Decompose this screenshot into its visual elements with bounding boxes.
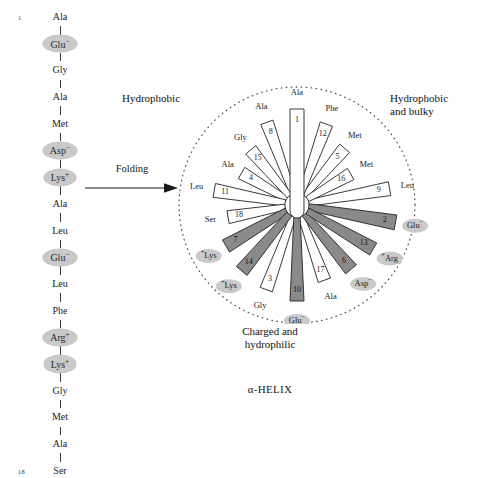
spoke-number-4: 4	[249, 173, 253, 182]
charged-residue-oval-13: +Arg	[377, 251, 403, 266]
spoke-number-18: 18	[235, 210, 243, 219]
peptide-bond-17	[60, 453, 61, 462]
residue-label-13: Arg+	[43, 329, 77, 346]
peptide-bond-9	[60, 240, 61, 249]
linear-chain-column: 1AlaGlu−GlyAlaMetAsp−Lys+AlaLeuGlu−LeuPh…	[0, 8, 120, 478]
residue-label-3: Gly	[254, 300, 268, 310]
spoke-number-8: 8	[269, 127, 273, 136]
residue-label-9: Leu	[401, 180, 415, 190]
residue-charge-7: +	[65, 170, 69, 179]
peptide-bond-5	[60, 133, 61, 142]
charged-residue-oval-10: Glu−	[284, 313, 310, 324]
residue-label-17: Ala	[50, 438, 70, 451]
residue-label-11: Leu	[190, 181, 204, 191]
residue-label-17: Ala	[324, 291, 337, 301]
chain-residue-16: Met	[0, 408, 120, 426]
spoke-number-2: 2	[383, 215, 387, 224]
zone-charged-line2: hydrophilic	[205, 338, 335, 351]
zone-charged-line1: Charged and	[205, 325, 335, 338]
residue-label-1: Ala	[291, 87, 304, 97]
residue-label-4: Ala	[50, 91, 70, 104]
residue-charge-14: +	[65, 357, 69, 366]
chain-residue-2: Glu−	[0, 35, 120, 53]
chain-residue-4: Ala	[0, 88, 120, 106]
spoke-number-6: 6	[342, 256, 346, 265]
peptide-bond-8	[60, 213, 61, 222]
residue-label-18: Ser	[205, 214, 217, 224]
peptide-bond-13	[60, 346, 61, 355]
zone-bulky-line2: and bulky	[390, 105, 490, 118]
spoke-number-13: 13	[360, 238, 368, 247]
charged-residue-oval-6: Asp−	[350, 276, 376, 291]
residue-label-10: Glu−	[43, 249, 76, 266]
helix-hub: 1	[290, 109, 304, 218]
chain-residue-3: Gly	[0, 61, 120, 79]
peptide-bond-1	[60, 26, 61, 35]
spoke-number-10: 10	[293, 285, 301, 294]
peptide-bond-16	[60, 427, 61, 436]
residue-label-6: Asp−	[43, 142, 77, 159]
chain-residue-5: Met	[0, 115, 120, 133]
charged-residue-oval-14: +Lys	[216, 279, 242, 294]
residue-label-8: Ala	[255, 101, 268, 111]
chain-residue-18: 18Ser	[0, 462, 120, 478]
peptide-bond-12	[60, 320, 61, 329]
spoke-number-7: 7	[234, 235, 238, 244]
residue-label-3: Gly	[50, 64, 71, 77]
chain-residue-12: Phe	[0, 302, 120, 320]
chain-residue-14: Lys+	[0, 355, 120, 373]
residue-label-18: Ser	[50, 464, 69, 477]
spoke-number-5: 5	[336, 152, 340, 161]
residue-label-5: Met	[348, 130, 362, 140]
residue-label-4: Ala	[222, 159, 235, 169]
chain-residue-11: Leu	[0, 275, 120, 293]
chain-residue-6: Asp−	[0, 141, 120, 159]
chain-residue-10: Glu−	[0, 248, 120, 266]
spoke-number-14: 14	[245, 257, 253, 266]
residue-label-16: Met	[359, 159, 373, 169]
residue-label-1: Ala	[50, 11, 70, 24]
peptide-bond-2	[60, 53, 61, 62]
residue-label-2: Glu−	[43, 35, 76, 52]
residue-label-12: Phe	[326, 103, 339, 113]
residue-label-9: Leu	[49, 224, 71, 237]
spoke-number-1: 1	[295, 115, 299, 124]
helix-title: α-HELIX	[205, 383, 335, 395]
zone-label-hydrophobic: Hydrophobic	[122, 92, 212, 105]
residue-charge-6: −	[66, 143, 70, 152]
residue-label-8: Ala	[50, 197, 70, 210]
residue-label-16: Met	[49, 411, 71, 424]
residue-label-14: Lys+	[44, 355, 77, 372]
residue-charge-10: −	[65, 250, 69, 259]
chain-residue-1: 1Ala	[0, 8, 120, 26]
charged-residue-oval-7: +Lys	[196, 248, 222, 263]
residue-charge-13: +	[66, 330, 70, 339]
helix-spoke-1	[290, 109, 304, 218]
zone-label-hydrophobic-and-bulky: Hydrophobic and bulky	[390, 92, 490, 118]
residue-label-7: Lys+	[44, 169, 77, 186]
spoke-number-15: 15	[254, 153, 262, 162]
peptide-bond-3	[60, 80, 61, 89]
residue-label-5: Met	[49, 117, 71, 130]
peptide-bond-15	[60, 400, 61, 409]
peptide-bond-14	[60, 373, 61, 382]
zone-bulky-line1: Hydrophobic	[390, 92, 490, 105]
spokes-layer: 34589111215161718267101314	[213, 120, 397, 301]
zone-label-charged-and-hydrophilic: Charged and hydrophilic	[205, 325, 335, 351]
spoke-number-12: 12	[319, 129, 327, 138]
peptide-bond-7	[60, 186, 61, 195]
peptide-bond-11	[60, 293, 61, 302]
peptide-bond-10	[60, 266, 61, 275]
chain-residue-9: Leu	[0, 222, 120, 240]
residue-label-15: Gly	[50, 384, 71, 397]
spoke-number-11: 11	[221, 187, 229, 196]
spoke-number-17: 17	[317, 265, 325, 274]
chain-index-18: 18	[18, 467, 25, 474]
spoke-number-9: 9	[377, 185, 381, 194]
spoke-number-16: 16	[337, 174, 345, 183]
charged-residue-oval-2: Glu−	[402, 218, 428, 233]
residue-label-12: Phe	[50, 304, 71, 317]
residue-charge-2: −	[65, 37, 69, 46]
chain-index-1: 1	[18, 14, 21, 21]
